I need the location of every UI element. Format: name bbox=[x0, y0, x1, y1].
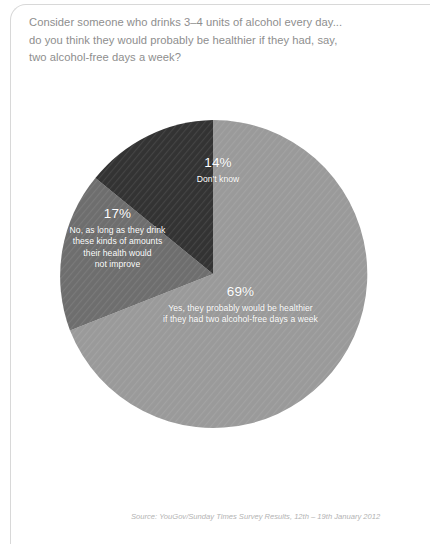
slice-description-dont-know: Don't know bbox=[172, 174, 264, 185]
slice-label-dont-know: 14% Don't know bbox=[172, 155, 264, 185]
slice-value-no: 17% bbox=[46, 206, 189, 222]
slice-description-no: No, as long as they drink these kinds of… bbox=[46, 225, 189, 271]
slice-value-yes: 69% bbox=[133, 284, 348, 300]
slice-description-yes: Yes, they probably would be healthier if… bbox=[133, 303, 348, 326]
source-footnote: Source: YouGov/Sunday Times Survey Resul… bbox=[131, 512, 411, 522]
slice-label-no: 17% No, as long as they drink these kind… bbox=[46, 206, 189, 271]
slice-value-dont-know: 14% bbox=[172, 155, 264, 171]
slice-label-yes: 69% Yes, they probably would be healthie… bbox=[133, 284, 348, 326]
